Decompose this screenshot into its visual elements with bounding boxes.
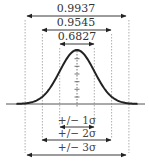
center-axis — [75, 51, 80, 108]
interval-label-3sigma-probability: 0.9937 — [57, 2, 96, 15]
sigma-label-1: +/− 1σ — [58, 114, 96, 126]
sigma-label-2: +/− 2σ — [58, 127, 96, 139]
sigma-label-3: +/− 3σ — [58, 141, 96, 153]
probability-intervals: 0.9937 0.9545 0.6827 — [27, 2, 126, 44]
sigma-intervals: +/− 1σ +/− 2σ +/− 3σ — [27, 114, 126, 155]
interval-label-1sigma-probability: 0.6827 — [58, 30, 97, 43]
interval-label-2sigma-probability: 0.9545 — [57, 16, 96, 29]
normal-distribution-diagram: 0.9937 0.9545 0.6827 +/− 1σ +/− 2σ +/− 3… — [0, 0, 149, 161]
